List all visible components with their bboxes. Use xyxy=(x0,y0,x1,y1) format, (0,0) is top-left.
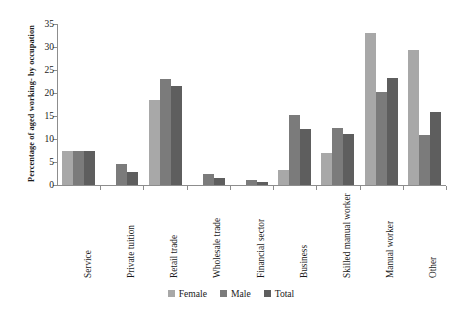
y-tick-label: 15 xyxy=(45,110,55,122)
legend-label-male: Male xyxy=(231,288,251,299)
x-axis-label: Manual worker xyxy=(385,221,396,278)
bar-female xyxy=(408,50,419,185)
bar-male xyxy=(203,174,214,185)
legend-swatch-female xyxy=(168,290,175,297)
legend-label-total: Total xyxy=(275,288,295,299)
bar-group xyxy=(321,24,354,185)
y-tick-label: 30 xyxy=(45,41,55,53)
bar-male xyxy=(376,92,387,185)
x-axis-label: Financial sector xyxy=(256,219,267,278)
x-tick-mark xyxy=(446,186,447,190)
bar-male xyxy=(332,128,343,186)
bar-total xyxy=(387,78,398,185)
bar-female xyxy=(321,153,332,185)
y-tick-label: 10 xyxy=(45,133,55,145)
x-axis-label: Private tuition xyxy=(126,225,137,278)
bar-male xyxy=(116,164,127,185)
bar-male xyxy=(246,180,257,185)
bar-group xyxy=(408,24,441,185)
x-axis-label: Skilled manual worker xyxy=(342,193,353,278)
bar-total xyxy=(127,172,138,185)
bar-male xyxy=(419,135,430,185)
bar-total xyxy=(430,112,441,185)
x-axis-label: Service xyxy=(83,250,94,278)
plot-area: 05101520253035 xyxy=(57,24,446,186)
bar-group xyxy=(149,24,182,185)
legend-swatch-total xyxy=(264,290,271,297)
bar-group xyxy=(105,24,138,185)
bar-group xyxy=(365,24,398,185)
bar-male xyxy=(160,79,171,185)
x-axis-label: Business xyxy=(299,245,310,278)
legend-item-total[interactable]: Total xyxy=(264,288,295,299)
bar-total xyxy=(300,129,311,185)
y-tick-label: 20 xyxy=(45,87,55,99)
y-tick-label: 35 xyxy=(45,18,55,30)
bar-female xyxy=(365,33,376,185)
legend-swatch-male xyxy=(220,290,227,297)
y-axis-line xyxy=(57,24,58,186)
x-tick-mark xyxy=(187,186,188,190)
x-tick-mark xyxy=(403,186,404,190)
bar-male xyxy=(73,151,84,185)
legend-label-female: Female xyxy=(179,288,207,299)
bar-group xyxy=(278,24,311,185)
bar-group xyxy=(235,24,268,185)
x-tick-mark xyxy=(360,186,361,190)
y-tick-label: 25 xyxy=(45,64,55,76)
legend-item-female[interactable]: Female xyxy=(168,288,207,299)
bar-male xyxy=(289,115,300,185)
bar-total xyxy=(214,178,225,185)
x-axis-line xyxy=(57,185,446,186)
x-tick-mark xyxy=(143,186,144,190)
bar-chart-figure: Percentage of aged working- by occupatio… xyxy=(0,0,462,321)
y-tick-label: 5 xyxy=(49,156,54,168)
legend-item-male[interactable]: Male xyxy=(220,288,251,299)
bar-total xyxy=(171,86,182,185)
chart-legend: FemaleMaleTotal xyxy=(0,288,462,299)
x-axis-label: Retail trade xyxy=(169,235,180,278)
x-tick-mark xyxy=(316,186,317,190)
bar-group xyxy=(62,24,95,185)
bar-female xyxy=(278,170,289,185)
bar-group xyxy=(192,24,225,185)
bar-female xyxy=(149,100,160,185)
bar-total xyxy=(343,134,354,185)
x-tick-mark xyxy=(273,186,274,190)
x-axis-label: Wholesale trade xyxy=(212,218,223,278)
y-axis-title: Percentage of aged working- by occupatio… xyxy=(27,9,36,199)
bar-total xyxy=(84,151,95,185)
bar-total xyxy=(257,182,268,185)
bar-female xyxy=(62,151,73,185)
x-tick-mark xyxy=(230,186,231,190)
x-axis-label: Other xyxy=(428,257,439,278)
x-tick-mark xyxy=(100,186,101,190)
y-tick-label: 0 xyxy=(49,179,54,191)
